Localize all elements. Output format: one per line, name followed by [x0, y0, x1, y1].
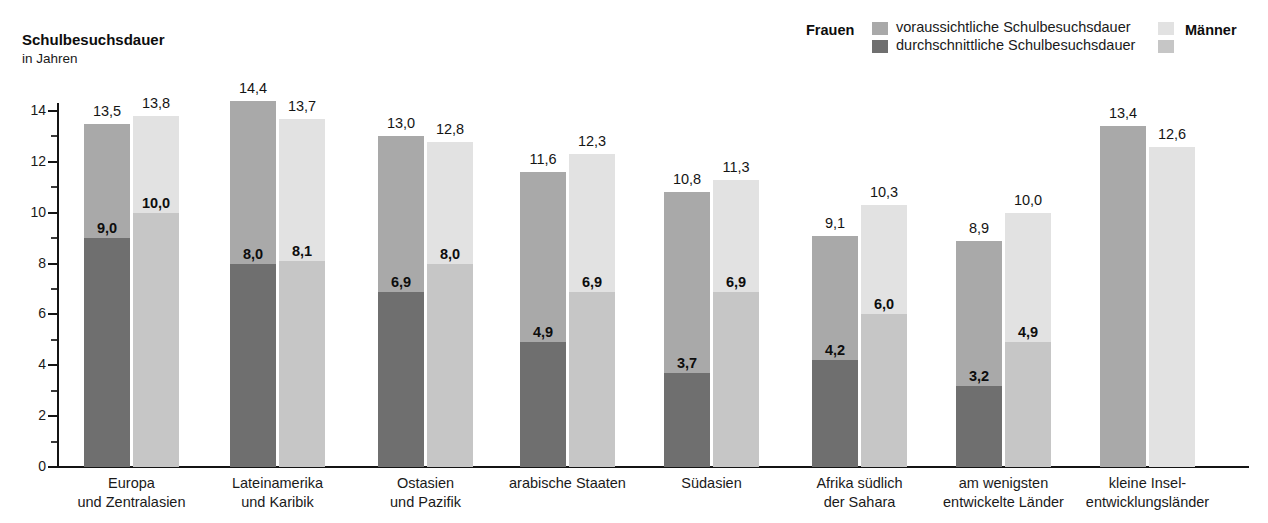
bar-segment-average	[230, 264, 276, 467]
category-label-line1: Lateinamerika	[193, 474, 363, 493]
y-tick-label: 10	[6, 204, 46, 220]
y-tick-minor	[51, 441, 57, 443]
category-label-line1: kleine Insel-	[1063, 474, 1233, 493]
bar-segment-average	[427, 264, 473, 467]
y-tick-major	[48, 364, 57, 366]
y-tick-label: 6	[6, 305, 46, 321]
y-tick-minor	[51, 237, 57, 239]
bar-average-value-label: 9,0	[77, 220, 137, 236]
bar-segment-average	[378, 292, 424, 467]
bar-men[interactable]: 11,36,9	[713, 180, 759, 467]
bar-segment-expected	[520, 172, 566, 342]
y-tick-minor	[51, 186, 57, 188]
y-tick-major	[48, 161, 57, 163]
bar-segment-average	[956, 386, 1002, 467]
category-label-line1: Südasien	[627, 474, 797, 493]
bar-average-value-label: 6,9	[371, 274, 431, 290]
bar-total-value-label: 10,0	[993, 192, 1063, 208]
bar-men[interactable]: 13,810,0	[133, 116, 179, 467]
category-label-line1: Europa	[47, 474, 217, 493]
bar-average-value-label: 6,9	[562, 274, 622, 290]
bar-segment-expected	[956, 241, 1002, 386]
bar-women[interactable]: 13,06,9	[378, 136, 424, 467]
bar-segment-average	[84, 238, 130, 467]
category-label-line2: und Pazifik	[341, 493, 511, 512]
y-tick-minor	[51, 135, 57, 137]
bar-women[interactable]: 14,48,0	[230, 101, 276, 467]
bar-total-value-label: 12,3	[557, 133, 627, 149]
bar-women[interactable]: 8,93,2	[956, 241, 1002, 467]
category-label: Südasien	[627, 474, 797, 493]
bar-total-value-label: 13,7	[267, 98, 337, 114]
y-tick-minor	[51, 288, 57, 290]
bar-average-value-label: 3,2	[949, 368, 1009, 384]
y-tick-major	[48, 415, 57, 417]
plot-area: 02468101214 13,59,013,810,014,48,013,78,…	[0, 0, 1268, 523]
bar-total-value-label: 13,8	[121, 95, 191, 111]
bar-segment-expected	[1100, 126, 1146, 467]
y-tick-major	[48, 110, 57, 112]
bar-segment-expected	[664, 192, 710, 373]
y-tick-label: 2	[6, 407, 46, 423]
y-tick-label: 12	[6, 153, 46, 169]
bar-women[interactable]: 13,4	[1100, 126, 1146, 467]
category-label: kleine Insel-entwicklungsländer	[1063, 474, 1233, 512]
bar-segment-expected	[378, 136, 424, 291]
y-tick-minor	[51, 339, 57, 341]
bar-segment-average	[664, 373, 710, 467]
bar-women[interactable]: 11,64,9	[520, 172, 566, 467]
bar-women[interactable]: 13,59,0	[84, 124, 130, 467]
bar-segment-expected	[569, 154, 615, 291]
category-label: Europaund Zentralasien	[47, 474, 217, 512]
bar-total-value-label: 14,4	[218, 80, 288, 96]
bar-segment-average	[713, 292, 759, 467]
bar-average-value-label: 10,0	[126, 195, 186, 211]
bar-total-value-label: 12,8	[415, 121, 485, 137]
bar-women[interactable]: 10,83,7	[664, 192, 710, 467]
bar-segment-expected	[279, 119, 325, 261]
bar-total-value-label: 9,1	[800, 215, 870, 231]
category-label-line2: und Karibik	[193, 493, 363, 512]
bar-segment-expected	[1149, 147, 1195, 467]
category-label: Lateinamerikaund Karibik	[193, 474, 363, 512]
y-tick-major	[48, 466, 57, 468]
y-tick-major	[48, 313, 57, 315]
y-axis-line	[57, 103, 59, 468]
bar-women[interactable]: 9,14,2	[812, 236, 858, 467]
y-tick-minor	[51, 390, 57, 392]
category-label-line2: entwicklungsländer	[1063, 493, 1233, 512]
bar-men[interactable]: 13,78,1	[279, 119, 325, 467]
bar-segment-average	[520, 342, 566, 467]
bar-men[interactable]: 12,6	[1149, 147, 1195, 467]
y-tick-label: 0	[6, 458, 46, 474]
bar-segment-average	[133, 213, 179, 467]
y-tick-label: 14	[6, 102, 46, 118]
category-label-line2: und Zentralasien	[47, 493, 217, 512]
bar-average-value-label: 4,9	[513, 324, 573, 340]
bar-men[interactable]: 10,04,9	[1005, 213, 1051, 467]
bar-total-value-label: 13,4	[1088, 105, 1158, 121]
bar-average-value-label: 3,7	[657, 355, 717, 371]
bar-average-value-label: 6,9	[706, 274, 766, 290]
y-tick-major	[48, 263, 57, 265]
bar-segment-average	[569, 292, 615, 467]
bar-total-value-label: 11,3	[701, 159, 771, 175]
bar-average-value-label: 6,0	[854, 296, 914, 312]
bar-segment-average	[812, 360, 858, 467]
bar-total-value-label: 8,9	[944, 220, 1014, 236]
bar-segment-expected	[1005, 213, 1051, 343]
bar-average-value-label: 4,9	[998, 324, 1058, 340]
y-tick-label: 4	[6, 356, 46, 372]
bar-men[interactable]: 12,36,9	[569, 154, 615, 467]
bar-total-value-label: 11,6	[508, 151, 578, 167]
bar-segment-expected	[230, 101, 276, 264]
y-tick-major	[48, 212, 57, 214]
bar-men[interactable]: 12,88,0	[427, 142, 473, 468]
bar-segment-average	[279, 261, 325, 467]
bar-segment-average	[861, 314, 907, 467]
y-tick-label: 8	[6, 255, 46, 271]
bar-men[interactable]: 10,36,0	[861, 205, 907, 467]
bar-average-value-label: 8,1	[272, 243, 332, 259]
bar-average-value-label: 8,0	[420, 246, 480, 262]
bar-segment-average	[1005, 342, 1051, 467]
